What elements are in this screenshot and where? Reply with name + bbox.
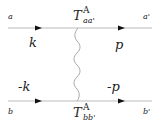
wavy-exchange-line (74, 28, 80, 101)
label-a-prime: a' (143, 12, 150, 21)
bottom-left-arrow-icon (35, 99, 42, 104)
momentum-p: p (115, 37, 124, 52)
vertex-label-bottom-sub: bb' (83, 113, 95, 122)
vertex-label-bottom-base: T (73, 105, 83, 120)
vertex-label-top-sup: A (82, 5, 90, 15)
label-a: a (8, 12, 13, 21)
top-left-arrow-icon (35, 26, 42, 31)
label-b: b (8, 107, 13, 116)
top-right-arrow-icon (118, 26, 125, 31)
feynman-diagram: a a' k p T A aa' b b' -k -p T A bb' (0, 0, 160, 125)
vertex-label-top-sub: aa' (83, 16, 95, 25)
vertex-label-top-base: T (73, 8, 83, 23)
label-b-prime: b' (143, 107, 150, 116)
momentum-minus-p: -p (107, 79, 120, 94)
momentum-k: k (29, 35, 37, 50)
momentum-minus-k: -k (18, 79, 30, 94)
bottom-right-arrow-icon (118, 99, 125, 104)
vertex-label-bottom-sup: A (82, 102, 90, 112)
